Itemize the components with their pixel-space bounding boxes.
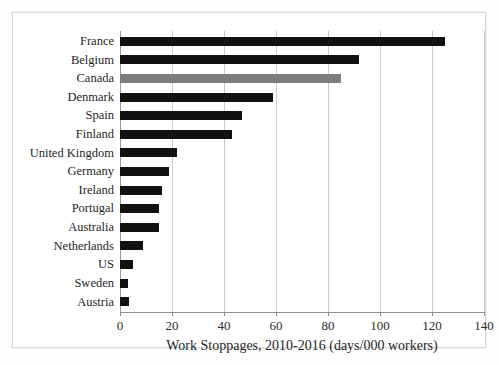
bar bbox=[120, 186, 162, 195]
x-tick-20 bbox=[172, 312, 173, 316]
bar-row: Sweden bbox=[120, 274, 484, 293]
x-tick-label: 80 bbox=[322, 318, 335, 333]
category-label: United Kingdom bbox=[30, 145, 114, 162]
bar-row: Netherlands bbox=[120, 237, 484, 256]
category-label: Belgium bbox=[71, 52, 114, 69]
x-axis-label: Work Stoppages, 2010-2016 (days/000 work… bbox=[120, 337, 484, 355]
bar bbox=[120, 297, 129, 306]
bar-row: US bbox=[120, 255, 484, 274]
category-label: Sweden bbox=[74, 275, 114, 292]
bar bbox=[120, 279, 128, 288]
bar bbox=[120, 37, 445, 46]
x-tick-label: 120 bbox=[422, 318, 442, 333]
bar bbox=[120, 241, 143, 250]
bar bbox=[120, 111, 242, 120]
bar bbox=[120, 93, 273, 102]
category-label: Australia bbox=[68, 219, 114, 236]
x-tick-120 bbox=[432, 312, 433, 316]
bar-row: Canada bbox=[120, 69, 484, 88]
category-label: France bbox=[80, 33, 114, 50]
bar-row: Spain bbox=[120, 106, 484, 125]
bar bbox=[120, 130, 232, 139]
x-tick-80 bbox=[328, 312, 329, 316]
bar bbox=[120, 260, 133, 269]
x-tick-100 bbox=[380, 312, 381, 316]
bar bbox=[120, 223, 159, 232]
category-label: US bbox=[98, 256, 114, 273]
category-label: Finland bbox=[76, 126, 114, 143]
bar bbox=[120, 55, 359, 64]
x-tick-60 bbox=[276, 312, 277, 316]
bar bbox=[120, 74, 341, 83]
category-label: Portugal bbox=[72, 200, 114, 217]
x-tick-label: 140 bbox=[474, 318, 494, 333]
x-tick-label: 60 bbox=[270, 318, 283, 333]
bar-row: Australia bbox=[120, 218, 484, 237]
category-label: Ireland bbox=[79, 182, 114, 199]
x-tick-label: 100 bbox=[370, 318, 390, 333]
category-label: Germany bbox=[67, 163, 114, 180]
category-label: Canada bbox=[77, 70, 114, 87]
x-tick-0 bbox=[120, 312, 121, 316]
x-axis-line bbox=[120, 312, 484, 313]
bar-row: Finland bbox=[120, 125, 484, 144]
bar bbox=[120, 204, 159, 213]
bar-row: Germany bbox=[120, 162, 484, 181]
category-label: Netherlands bbox=[54, 238, 114, 255]
bar-row: Ireland bbox=[120, 181, 484, 200]
x-tick-40 bbox=[224, 312, 225, 316]
bar-row: France bbox=[120, 32, 484, 51]
x-tick-label: 20 bbox=[166, 318, 179, 333]
bar-row: Portugal bbox=[120, 199, 484, 218]
category-label: Denmark bbox=[67, 89, 114, 106]
figure-frame: FranceBelgiumCanadaDenmarkSpainFinlandUn… bbox=[12, 12, 486, 348]
bar bbox=[120, 167, 169, 176]
x-tick-label: 40 bbox=[218, 318, 231, 333]
figure-canvas: FranceBelgiumCanadaDenmarkSpainFinlandUn… bbox=[0, 0, 499, 365]
bar-row: United Kingdom bbox=[120, 144, 484, 163]
plot-area: FranceBelgiumCanadaDenmarkSpainFinlandUn… bbox=[120, 31, 484, 312]
bar bbox=[120, 148, 177, 157]
bar-row: Austria bbox=[120, 293, 484, 312]
category-label: Austria bbox=[77, 294, 114, 311]
gridline-140 bbox=[484, 31, 485, 312]
bar-row: Denmark bbox=[120, 88, 484, 107]
x-tick-140 bbox=[484, 312, 485, 316]
bar-row: Belgium bbox=[120, 51, 484, 70]
category-label: Spain bbox=[86, 107, 114, 124]
x-tick-label: 0 bbox=[117, 318, 124, 333]
